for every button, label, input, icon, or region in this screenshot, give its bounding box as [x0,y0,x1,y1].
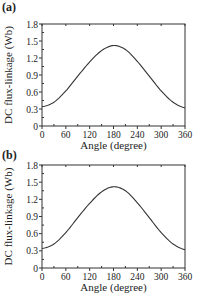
y-tick-label: 0 [33,122,38,132]
plot-frame [42,24,185,126]
y-tick-label: 0.9 [26,71,38,81]
x-tick-label: 360 [178,130,193,140]
y-tick-label: 1.8 [26,161,38,171]
x-tick-label: 0 [40,130,45,140]
line-chart-a: 00.30.60.91.21.51.8060120180240300360Ang… [0,0,200,153]
y-tick-label: 1.5 [26,178,38,188]
y-axis-title: DC flux-linkage (Wb) [2,26,15,124]
y-tick-label: 0.6 [26,88,38,98]
y-tick-label: 1.8 [26,20,38,30]
plot-frame [42,165,185,268]
y-tick-label: 1.2 [26,54,38,64]
y-axis-title: DC flux-linkage (Wb) [2,167,15,265]
y-tick-label: 1.5 [26,37,38,47]
flux-linkage-curve [42,46,185,108]
line-chart-b: 00.30.60.91.21.51.8060120180240300360Ang… [0,142,200,306]
x-tick-label: 60 [61,130,71,140]
y-tick-label: 1.2 [26,195,38,205]
x-tick-label: 0 [40,272,45,282]
y-tick-label: 0.3 [26,246,38,256]
chart-panel-b: (b) 00.30.60.91.21.51.806012018024030036… [0,142,200,306]
x-tick-label: 300 [154,130,169,140]
x-axis-title: Angle (degree) [80,281,147,294]
y-tick-label: 0 [33,264,38,274]
y-tick-label: 0.3 [26,105,38,115]
x-tick-label: 360 [178,272,193,282]
chart-panel-a: (a) 00.30.60.91.21.51.806012018024030036… [0,0,200,153]
x-tick-label: 60 [61,272,71,282]
y-tick-label: 0.9 [26,212,38,222]
x-tick-label: 300 [154,272,169,282]
flux-linkage-curve [42,187,185,250]
y-tick-label: 0.6 [26,229,38,239]
